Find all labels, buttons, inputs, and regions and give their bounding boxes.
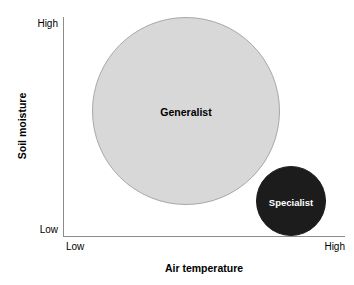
- x-axis-title: Air temperature: [63, 262, 345, 274]
- y-axis-line: [63, 17, 64, 237]
- x-axis-tick-low: Low: [66, 241, 84, 252]
- bubble-generalist: Generalist: [92, 17, 280, 205]
- conceptual-niche-diagram: High Low Low High Soil moisture Air temp…: [0, 0, 354, 285]
- x-axis-line: [63, 236, 345, 237]
- bubble-generalist-label: Generalist: [160, 106, 211, 118]
- bubble-specialist-label: Specialist: [269, 197, 313, 208]
- y-axis-tick-high: High: [0, 18, 58, 29]
- y-axis-title: Soil moisture: [16, 61, 28, 191]
- y-axis-tick-low: Low: [0, 224, 58, 235]
- x-axis-tick-high: High: [285, 241, 345, 252]
- bubble-specialist: Specialist: [256, 166, 326, 236]
